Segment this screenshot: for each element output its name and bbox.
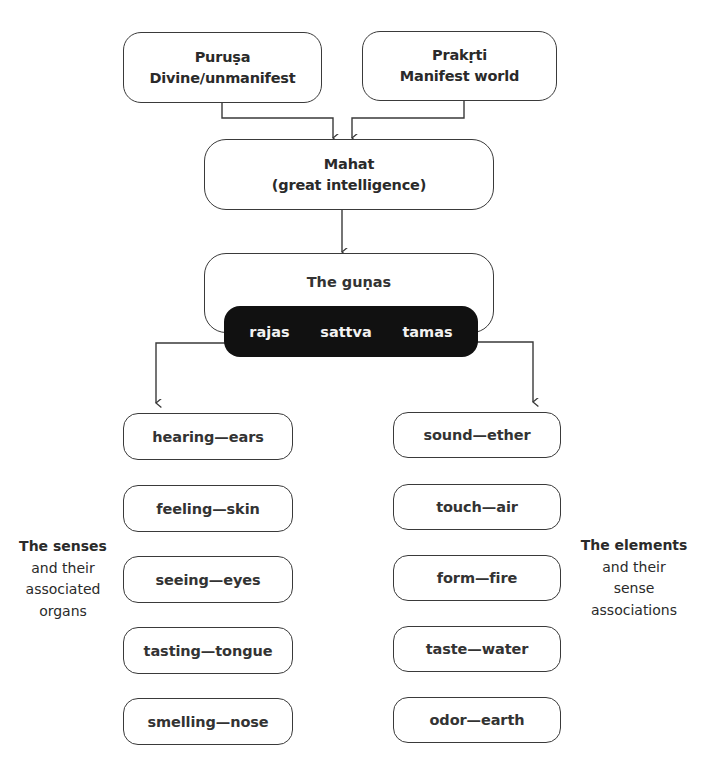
mahat-subtitle: (great intelligence) — [272, 175, 426, 196]
guna-rajas: rajas — [249, 324, 289, 340]
sense-label: tasting—tongue — [144, 643, 273, 659]
element-box: touch—air — [393, 484, 561, 530]
sense-box: seeing—eyes — [123, 556, 293, 603]
elements-side-label: The elements and their sense association… — [568, 535, 700, 621]
senses-side-label: The senses and their associated organs — [4, 536, 122, 622]
senses-label-line: and their — [4, 558, 122, 580]
elements-label-head: The elements — [568, 535, 700, 557]
element-label: touch—air — [436, 499, 518, 515]
element-label: sound—ether — [423, 427, 530, 443]
prakrti-subtitle: Manifest world — [400, 66, 519, 87]
element-box: odor—earth — [393, 697, 561, 743]
sense-label: smelling—nose — [147, 714, 268, 730]
arrow-gunas-to-senses — [156, 343, 226, 403]
guna-tamas: tamas — [402, 324, 452, 340]
mahat-box: Mahat (great intelligence) — [204, 139, 494, 210]
sense-label: hearing—ears — [152, 429, 263, 445]
purusa-title: Puruṣa — [195, 47, 251, 68]
sense-label: feeling—skin — [156, 501, 260, 517]
prakrti-title: Prakṛti — [432, 45, 487, 66]
prakrti-box: Prakṛti Manifest world — [362, 31, 557, 101]
arrow-gunas-to-elements — [476, 342, 533, 402]
gunas-pill: rajas sattva tamas — [224, 306, 478, 357]
arrow-purusa-to-mahat — [222, 103, 333, 138]
purusa-box: Puruṣa Divine/unmanifest — [123, 32, 322, 103]
gunas-title: The guṇas — [205, 274, 493, 290]
mahat-title: Mahat — [324, 154, 374, 175]
sense-box: tasting—tongue — [123, 627, 293, 674]
element-label: odor—earth — [430, 712, 525, 728]
sense-box: hearing—ears — [123, 413, 293, 460]
elements-label-line: and their — [568, 557, 700, 579]
element-box: form—fire — [393, 555, 561, 601]
senses-label-head: The senses — [4, 536, 122, 558]
sense-box: smelling—nose — [123, 698, 293, 745]
sense-label: seeing—eyes — [155, 572, 260, 588]
elements-label-line: sense — [568, 578, 700, 600]
sense-box: feeling—skin — [123, 485, 293, 532]
elements-label-line: associations — [568, 600, 700, 622]
connector-arrows — [0, 0, 705, 769]
senses-label-line: organs — [4, 601, 122, 623]
guna-sattva: sattva — [320, 324, 372, 340]
element-label: taste—water — [426, 641, 529, 657]
senses-label-line: associated — [4, 579, 122, 601]
purusa-subtitle: Divine/unmanifest — [149, 68, 295, 89]
element-box: sound—ether — [393, 412, 561, 458]
arrow-prakrti-to-mahat — [352, 101, 464, 138]
element-box: taste—water — [393, 626, 561, 672]
element-label: form—fire — [437, 570, 517, 586]
